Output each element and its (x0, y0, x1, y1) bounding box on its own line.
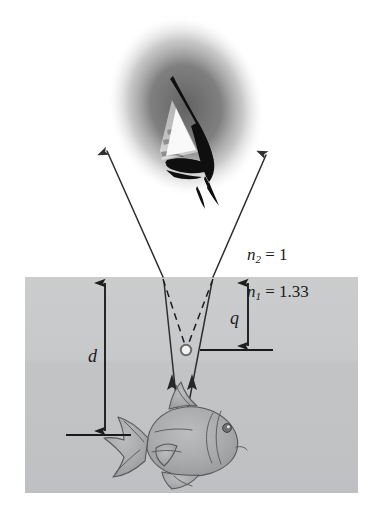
label-refractive-index-water: n1 = 1.33 (247, 283, 309, 302)
label-n1-value: 1.33 (279, 282, 309, 301)
label-n2-subscript: 2 (256, 253, 262, 265)
fish-eye-highlight (227, 425, 230, 428)
label-n2-equals: = (265, 245, 275, 264)
figure-canvas: n2 = 1 n1 = 1.33 d q (0, 0, 380, 520)
label-apparent-depth-q: q (230, 309, 239, 327)
fish-eye (223, 424, 232, 433)
label-n1-subscript: 1 (256, 290, 262, 302)
refraction-diagram (0, 0, 380, 520)
label-n2-symbol: n (247, 245, 256, 264)
label-n1-equals: = (265, 282, 275, 301)
label-n2-value: 1 (279, 245, 288, 264)
label-depth-d: d (88, 347, 97, 365)
apparent-image-point (181, 345, 191, 355)
label-n1-symbol: n (247, 282, 256, 301)
label-refractive-index-air: n2 = 1 (247, 246, 288, 265)
